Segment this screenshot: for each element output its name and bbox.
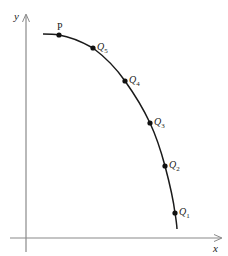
point-label: P xyxy=(57,21,63,32)
x-axis-label: x xyxy=(212,242,218,254)
point-label: Q4 xyxy=(129,74,140,88)
curve xyxy=(43,34,177,229)
point-marker xyxy=(147,120,152,125)
point-marker xyxy=(122,78,127,83)
point-q2: Q2 xyxy=(162,159,180,173)
point-label: Q2 xyxy=(169,159,180,173)
point-label: Q3 xyxy=(154,116,165,130)
x-axis: x xyxy=(10,235,222,255)
point-label: Q1 xyxy=(179,206,190,220)
point-q3: Q3 xyxy=(147,116,165,130)
point-marker xyxy=(172,210,177,215)
y-axis-label: y xyxy=(13,10,19,22)
diagram: y x PQ5Q4Q3Q2Q1 xyxy=(0,0,228,256)
point-q4: Q4 xyxy=(122,74,140,88)
point-marker xyxy=(56,32,61,37)
point-marker xyxy=(162,163,167,168)
point-marker xyxy=(90,45,95,50)
y-axis: y xyxy=(13,10,30,252)
